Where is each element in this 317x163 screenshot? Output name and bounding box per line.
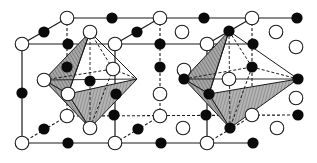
open-atom [15, 37, 29, 51]
filled-atom [84, 75, 95, 86]
filled-atom [291, 12, 302, 23]
open-atom [289, 40, 303, 54]
filled-atom [178, 73, 189, 84]
filled-atom [110, 88, 121, 99]
open-atom [245, 108, 259, 122]
open-atom [108, 37, 122, 51]
filled-atom [38, 123, 49, 134]
open-atom [200, 136, 214, 150]
open-atom [15, 136, 29, 150]
open-atom [270, 121, 284, 135]
filled-atom [62, 137, 73, 148]
open-atom [37, 73, 51, 87]
open-atom [60, 109, 74, 123]
open-atom [176, 121, 190, 135]
filled-atom [246, 61, 257, 72]
filled-atom [292, 73, 303, 84]
open-atom [60, 11, 74, 25]
open-atom [200, 37, 214, 51]
filled-atom [62, 38, 73, 49]
filled-atom [200, 109, 211, 120]
open-atom [222, 72, 236, 86]
filled-atom [292, 109, 303, 120]
filled-atom [108, 109, 119, 120]
open-atom [153, 87, 167, 101]
filled-atom [154, 61, 165, 72]
crystal-structure-canvas [0, 0, 317, 163]
open-atom [245, 11, 259, 25]
filled-atom [61, 61, 72, 72]
filled-atom [154, 38, 165, 49]
filled-atom [106, 12, 117, 23]
filled-atom [131, 26, 142, 37]
open-atom [83, 121, 97, 135]
open-atom [153, 109, 167, 123]
crystal-structure-diagram [0, 0, 317, 163]
filled-atom [247, 137, 258, 148]
filled-atom [132, 123, 143, 134]
filled-atom [247, 38, 258, 49]
open-atom [106, 62, 120, 76]
open-atom [108, 136, 122, 150]
filled-atom [198, 12, 209, 23]
open-atom [83, 25, 97, 39]
filled-atom [224, 122, 235, 133]
open-atom [175, 25, 189, 39]
open-atom [153, 11, 167, 25]
filled-atom [223, 25, 234, 36]
open-atom [289, 91, 303, 105]
open-atom [269, 25, 283, 39]
open-atom [61, 87, 75, 101]
filled-atom [155, 137, 166, 148]
filled-atom [16, 87, 27, 98]
filled-atom [38, 26, 49, 37]
filled-atom [203, 88, 214, 99]
